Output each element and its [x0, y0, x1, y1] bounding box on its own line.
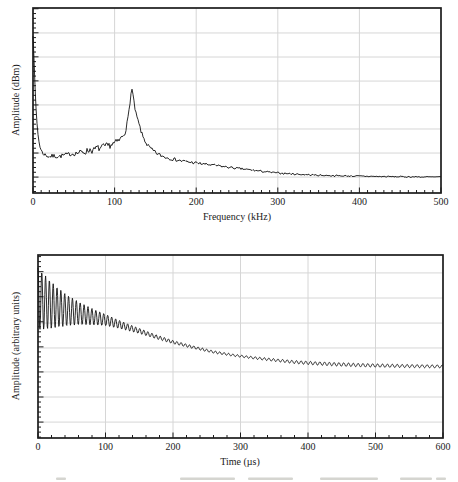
frequency-spectrum-plot	[33, 8, 441, 193]
x-tick-label: 500	[434, 197, 449, 207]
x-tick-label: 300	[233, 442, 248, 452]
x-tick-label: 600	[436, 442, 451, 452]
x-tick-label: 0	[31, 197, 36, 207]
x-tick-label: 100	[107, 197, 122, 207]
waveform-xlabel: Time (µs)	[220, 457, 260, 467]
spectrum-ylabel: Amplitude (dBm)	[11, 64, 21, 135]
x-tick-label: 300	[270, 197, 285, 207]
x-tick-label: 500	[368, 442, 383, 452]
x-tick-label: 400	[352, 197, 367, 207]
x-tick-label: 100	[98, 442, 113, 452]
x-tick-label: 200	[189, 197, 204, 207]
figure: Amplitude (dBm) Frequency (kHz) Amplitud…	[0, 0, 458, 482]
truncated-caption-fragment	[56, 478, 446, 480]
x-tick-label: 400	[301, 442, 316, 452]
plots-canvas	[0, 0, 458, 482]
x-tick-label: 0	[36, 442, 41, 452]
spectrum-xlabel: Frequency (kHz)	[203, 212, 271, 222]
time-waveform-plot	[38, 255, 443, 438]
waveform-ylabel: Amplitude (arbitrary units)	[11, 292, 21, 400]
x-tick-label: 200	[166, 442, 181, 452]
